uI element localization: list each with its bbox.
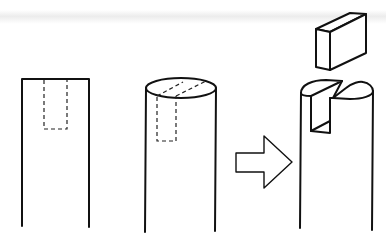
post-perspective-view bbox=[145, 78, 216, 232]
slot-hidden-outline bbox=[44, 80, 67, 129]
post-with-slot-cut bbox=[300, 80, 373, 230]
post-right-edge bbox=[372, 91, 373, 230]
post-top-ellipse bbox=[146, 78, 216, 98]
slot-top-dashed-right bbox=[176, 81, 206, 96]
process-arrow-icon bbox=[236, 136, 292, 188]
slot-front-face bbox=[311, 96, 330, 133]
top-right-surface bbox=[333, 82, 373, 99]
slot-hidden-outline bbox=[157, 96, 176, 141]
post-left-edge bbox=[145, 88, 146, 232]
post-outline bbox=[22, 79, 89, 227]
post-side-view bbox=[22, 79, 89, 227]
removed-block bbox=[316, 13, 366, 70]
diagram-canvas bbox=[0, 0, 386, 241]
post-left-edge bbox=[300, 93, 301, 228]
post-right-edge bbox=[215, 88, 216, 231]
block-front-face bbox=[316, 29, 330, 70]
slot-bottom-edge bbox=[311, 121, 330, 131]
